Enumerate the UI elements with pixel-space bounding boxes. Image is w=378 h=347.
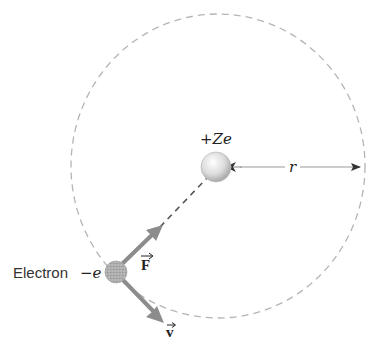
- nucleus: [201, 152, 231, 182]
- electron-label: Electron: [13, 264, 68, 281]
- electron-nucleus-dashed-line: [160, 178, 207, 227]
- velocity-label: v: [166, 323, 176, 341]
- velocity-arrow: [123, 280, 155, 313]
- bohr-diagram: r +Ze F v Electron −e: [0, 0, 378, 347]
- svg-text:F: F: [141, 257, 150, 273]
- force-label: F: [141, 253, 153, 273]
- nucleus-charge-label: +Ze: [200, 130, 232, 148]
- electron: [105, 261, 127, 283]
- radius-label: r: [289, 158, 297, 176]
- electron-charge-label: −e: [80, 264, 102, 282]
